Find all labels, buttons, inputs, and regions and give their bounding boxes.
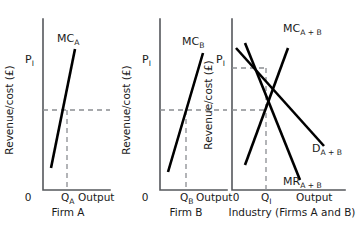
y-axis-label-firm-a: Revenue/cost (£) bbox=[3, 65, 15, 154]
curve-label-mr-industry-sub: A + B bbox=[300, 181, 322, 190]
quantity-label-firm-b-sub: B bbox=[188, 197, 193, 206]
x-axis-label-firm-b: Output bbox=[196, 191, 232, 203]
curve-label-demand-industry-text: D bbox=[312, 142, 320, 155]
curve-label-mr-industry-text: MR bbox=[283, 175, 300, 188]
x-axis-label-firm-a: Output bbox=[78, 191, 114, 203]
economics-figure: Revenue/cost (£) MCA PI 0 QA Output Firm… bbox=[0, 0, 358, 232]
origin-label-firm-a: 0 bbox=[25, 191, 32, 203]
curve-label-mc-b-text: MC bbox=[182, 35, 199, 48]
price-label-industry: PI bbox=[216, 53, 225, 68]
quantity-label-industry-text: Q bbox=[261, 191, 269, 203]
curve-mc-b bbox=[168, 53, 203, 172]
caption-firm-a: Firm A bbox=[51, 206, 85, 218]
price-label-firm-b-sub: I bbox=[149, 59, 151, 68]
quantity-label-firm-a-text: Q bbox=[61, 191, 69, 203]
curve-label-mc-a-text: MC bbox=[57, 32, 74, 45]
curve-label-mc-industry: MCA + B bbox=[283, 22, 322, 37]
quantity-label-firm-b-text: Q bbox=[180, 191, 188, 203]
curve-label-mc-industry-text: MC bbox=[283, 22, 300, 35]
curve-mc-a bbox=[51, 49, 75, 168]
curve-label-mc-a: MCA bbox=[57, 32, 80, 47]
y-axis-label-industry: Revenue/cost (£) bbox=[202, 60, 214, 149]
curve-label-mc-a-sub: A bbox=[74, 38, 80, 47]
price-label-industry-sub: I bbox=[223, 59, 225, 68]
axes-industry bbox=[232, 19, 345, 190]
curve-label-demand-industry: DA + B bbox=[312, 142, 342, 157]
quantity-label-firm-a-sub: A bbox=[69, 197, 75, 206]
panel-firm-a: Revenue/cost (£) MCA PI 0 QA Output Firm… bbox=[3, 19, 114, 218]
price-label-firm-b: PI bbox=[142, 53, 151, 68]
curve-label-mc-b: MCB bbox=[182, 35, 204, 50]
panel-industry: Revenue/cost (£) MCA + B DA + B MRA + B … bbox=[202, 19, 355, 218]
curve-label-mc-b-sub: B bbox=[199, 41, 204, 50]
x-axis-label-industry: Output bbox=[296, 191, 332, 203]
quantity-label-firm-a: QA bbox=[61, 191, 75, 206]
quantity-label-industry: QI bbox=[261, 191, 272, 206]
origin-label-firm-b: 0 bbox=[142, 191, 149, 203]
y-axis-label-firm-b: Revenue/cost (£) bbox=[120, 65, 132, 154]
curve-label-mc-industry-sub: A + B bbox=[300, 28, 322, 37]
figure-svg: Revenue/cost (£) MCA PI 0 QA Output Firm… bbox=[0, 0, 358, 232]
caption-industry: Industry (Firms A and B) bbox=[229, 206, 356, 218]
quantity-label-industry-sub: I bbox=[269, 197, 271, 206]
price-label-firm-a: PI bbox=[25, 53, 34, 68]
price-label-firm-a-sub: I bbox=[32, 59, 34, 68]
quantity-label-firm-b: QB bbox=[180, 191, 193, 206]
caption-firm-b: Firm B bbox=[169, 206, 202, 218]
origin-label-industry: 0 bbox=[233, 191, 240, 203]
curve-label-mr-industry: MRA + B bbox=[283, 175, 322, 190]
panel-firm-b: Revenue/cost (£) MCB PI 0 QB Output Firm… bbox=[120, 19, 232, 218]
curve-label-demand-industry-sub: A + B bbox=[320, 148, 342, 157]
